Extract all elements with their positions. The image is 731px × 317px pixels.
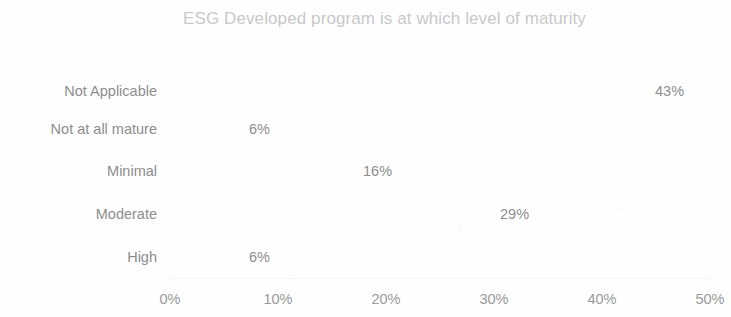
category-label: Not Applicable [0,78,157,104]
bar-row: High 6% [0,244,731,270]
x-axis-tick: 20% [371,288,400,310]
bar-chart: ESG Developed program is at which level … [0,0,731,317]
bar-high[interactable] [170,246,235,268]
x-axis-tick: 50% [695,288,724,310]
x-axis-tick: 10% [263,288,292,310]
category-label: Minimal [0,158,157,184]
x-axis-tick: 0% [160,288,181,310]
x-axis-tick-labels: 0% 10% 20% 30% 40% 50% [0,288,731,310]
bar-row: Not Applicable 43% [0,78,731,104]
bar-row: Moderate 29% [0,201,731,227]
category-label: Not at all mature [0,116,157,142]
bar-row: Not at all mature 6% [0,116,731,142]
bar-not-applicable[interactable] [170,80,634,102]
bar-value-label: 29% [500,201,529,227]
bar-value-label: 6% [249,244,270,270]
bar-moderate[interactable] [170,203,483,225]
plot-area: Not Applicable 43% Not at all mature 6% … [0,0,731,317]
x-axis-line [170,278,711,279]
x-axis-tick: 40% [587,288,616,310]
x-axis-tick: 30% [479,288,508,310]
category-label: Moderate [0,201,157,227]
bar-not-at-all-mature[interactable] [170,118,235,140]
bar-value-label: 6% [249,116,270,142]
bar-value-label: 43% [655,78,684,104]
bar-minimal[interactable] [170,160,343,182]
bar-value-label: 16% [363,158,392,184]
bar-row: Minimal 16% [0,158,731,184]
category-label: High [0,244,157,270]
